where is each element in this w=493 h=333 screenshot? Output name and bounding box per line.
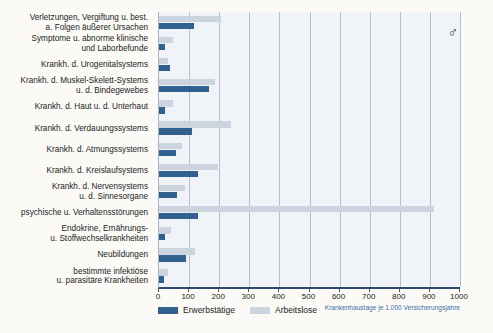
category-label: Neubildungen: [0, 245, 153, 266]
x-tick-label: 0: [156, 292, 160, 301]
category-row: [159, 245, 460, 266]
bar-erwerbstaetige: [159, 255, 186, 261]
category-label: Krankh. d. Muskel-Skelett-Systemsu. d. B…: [0, 75, 153, 96]
x-tick-label: 800: [392, 292, 405, 301]
category-row: [159, 266, 460, 287]
category-label: Krankh. d. Atmungssystems: [0, 139, 153, 160]
category-row: [159, 75, 460, 96]
category-label-line: Krankh. d. Atmungssystems: [47, 145, 148, 155]
category-row: [159, 12, 460, 33]
category-row: [159, 97, 460, 118]
bar-erwerbstaetige: [159, 107, 165, 113]
x-axis: 01002003004005006007008009001000: [158, 289, 459, 303]
category-label: Krankh. d. Urogenitalsystems: [0, 54, 153, 75]
bar-erwerbstaetige: [159, 192, 177, 198]
x-tick-label: 900: [422, 292, 435, 301]
bar-arbeitslose: [159, 16, 221, 22]
category-label-line: Krankh. d. Urogenitalsystems: [41, 60, 148, 70]
gridline: [460, 12, 461, 287]
legend-swatch: [250, 307, 270, 314]
category-label-line: u. d. Sinnesorgane: [79, 192, 148, 202]
category-row: [159, 160, 460, 181]
x-tick-label: 500: [302, 292, 315, 301]
category-label-line: und Laborbefunde: [82, 44, 148, 54]
bar-erwerbstaetige: [159, 44, 165, 50]
bar-arbeitslose: [159, 79, 215, 85]
x-tick-label: 300: [242, 292, 255, 301]
bar-erwerbstaetige: [159, 276, 164, 282]
category-label-line: Krankh. d. Haut u. d. Unterhaut: [35, 102, 148, 112]
category-label-line: Neubildungen: [97, 250, 148, 260]
bar-erwerbstaetige: [159, 234, 165, 240]
x-tick-label: 600: [332, 292, 345, 301]
bar-arbeitslose: [159, 58, 168, 64]
x-tick-label: 1000: [450, 292, 468, 301]
category-label-line: u. d. Bindegewebes: [76, 86, 148, 96]
bar-arbeitslose: [159, 248, 195, 254]
category-row: [159, 181, 460, 202]
category-label-line: Endokrine, Ernährungs-: [62, 224, 148, 234]
category-label: Krankh. d. Verdauungssystems: [0, 118, 153, 139]
bar-erwerbstaetige: [159, 23, 194, 29]
category-label-line: Krankh. d. Nervensystems: [52, 182, 148, 192]
bar-arbeitslose: [159, 37, 173, 43]
category-label-line: Krankh. d. Muskel-Skelett-Systems: [21, 76, 148, 86]
bar-arbeitslose: [159, 143, 182, 149]
category-row: [159, 54, 460, 75]
x-axis-label: Krankenhaustage je 1.000 Versicherungsja…: [290, 304, 460, 311]
x-tick-label: 100: [181, 292, 194, 301]
category-label-line: psychische u. Verhaltensstörungen: [21, 208, 148, 218]
category-label-line: Krankh. d. Verdauungssystems: [35, 124, 148, 134]
bar-arbeitslose: [159, 206, 434, 212]
category-row: [159, 202, 460, 223]
chart-page: Verletzungen, Vergiftung u. best.a. Folg…: [0, 0, 493, 333]
category-label: Endokrine, Ernährungs-u. Stoffwechselkra…: [0, 224, 153, 245]
category-label: Symptome u. abnorme klinischeund Laborbe…: [0, 33, 153, 54]
bar-arbeitslose: [159, 100, 173, 106]
legend-item: Erwerbstätige: [158, 305, 235, 315]
category-row: [159, 224, 460, 245]
category-label-line: a. Folgen äußerer Ursachen: [46, 23, 148, 33]
legend-label: Erwerbstätige: [183, 305, 235, 315]
bar-erwerbstaetige: [159, 150, 176, 156]
bar-rows: [159, 12, 460, 287]
category-label-line: u. Stoffwechselkrankheiten: [50, 234, 148, 244]
bar-erwerbstaetige: [159, 65, 170, 71]
category-label: Krankh. d. Kreislaufsystems: [0, 160, 153, 181]
bar-erwerbstaetige: [159, 171, 198, 177]
bar-arbeitslose: [159, 185, 185, 191]
category-label-line: Symptome u. abnorme klinische: [32, 34, 149, 44]
category-label: Krankh. d. Haut u. d. Unterhaut: [0, 97, 153, 118]
category-label: Verletzungen, Vergiftung u. best.a. Folg…: [0, 12, 153, 33]
category-row: [159, 139, 460, 160]
legend-swatch: [158, 307, 178, 314]
bar-erwerbstaetige: [159, 128, 192, 134]
plot-area: ♂: [158, 12, 460, 289]
x-tick-label: 400: [272, 292, 285, 301]
male-gender-icon: ♂: [448, 24, 459, 40]
category-row: [159, 118, 460, 139]
category-label-line: bestimmte infektiöse: [73, 267, 148, 277]
x-tick-label: 200: [212, 292, 225, 301]
bar-arbeitslose: [159, 227, 171, 233]
category-label: psychische u. Verhaltensstörungen: [0, 202, 153, 223]
category-label: Krankh. d. Nervensystemsu. d. Sinnesorga…: [0, 181, 153, 202]
bar-erwerbstaetige: [159, 86, 209, 92]
category-label-line: Krankh. d. Kreislaufsystems: [47, 166, 148, 176]
bar-arbeitslose: [159, 164, 218, 170]
bar-arbeitslose: [159, 269, 168, 275]
category-label-line: Verletzungen, Vergiftung u. best.: [30, 13, 148, 23]
bar-arbeitslose: [159, 121, 231, 127]
category-label-line: u. parasitäre Krankheiten: [57, 276, 148, 286]
bar-erwerbstaetige: [159, 213, 198, 219]
category-row: [159, 33, 460, 54]
x-tick-label: 700: [362, 292, 375, 301]
category-labels: Verletzungen, Vergiftung u. best.a. Folg…: [0, 12, 153, 287]
category-label: bestimmte infektiöseu. parasitäre Krankh…: [0, 266, 153, 287]
